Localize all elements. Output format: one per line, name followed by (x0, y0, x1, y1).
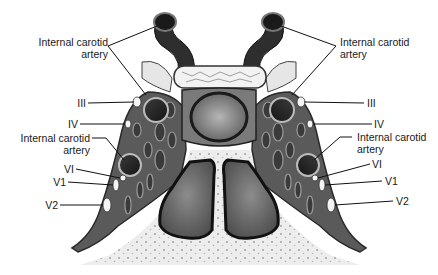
label-left-ica-mid: Internal carotid artery (0, 132, 90, 156)
label-text: artery (340, 48, 409, 60)
label-text: artery (357, 143, 426, 155)
label-right-iii: III (367, 97, 376, 109)
label-right-iv: IV (374, 118, 384, 130)
label-right-ica-top: Internal carotid artery (340, 36, 409, 60)
label-left-iv: IV (50, 118, 78, 130)
label-right-ica-mid: Internal carotid artery (357, 131, 426, 155)
label-text: Internal carotid (18, 36, 108, 48)
label-left-v2: V2 (30, 199, 58, 211)
label-left-v1: V1 (40, 176, 66, 188)
right-clinoid (266, 61, 296, 92)
left-ica-upper (144, 98, 168, 122)
label-text: Internal carotid (340, 36, 409, 48)
left-nerve-vi (120, 175, 126, 181)
pituitary-gland (191, 93, 247, 141)
label-left-ica-top: Internal carotid artery (18, 36, 108, 60)
label-text: Internal carotid (0, 132, 90, 144)
left-nerve-iii (133, 97, 141, 107)
left-clinoid (142, 61, 172, 92)
label-right-vi: VI (372, 158, 382, 170)
label-text: Internal carotid (357, 131, 426, 143)
optic-chiasm (174, 66, 266, 88)
left-nerve-v1 (113, 179, 119, 191)
label-right-v1: V1 (385, 175, 398, 187)
label-right-v2: V2 (396, 195, 409, 207)
label-text: artery (0, 144, 90, 156)
left-nerve-iv (125, 120, 131, 128)
left-nerve-v2 (103, 198, 111, 212)
label-left-vi: VI (50, 163, 74, 175)
label-text: artery (18, 48, 108, 60)
label-left-iii: III (60, 97, 86, 109)
